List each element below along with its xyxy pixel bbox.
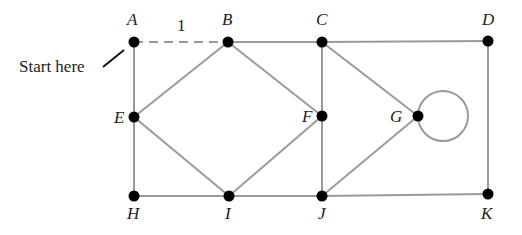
start-pointer	[103, 50, 124, 67]
node-d	[483, 36, 494, 47]
node-c	[317, 37, 328, 48]
node-i	[224, 191, 235, 202]
start-here-note: Start here	[19, 57, 85, 76]
edge-label-ab: 1	[177, 16, 186, 35]
node-k	[483, 189, 494, 200]
node-label-f: F	[301, 107, 313, 126]
edge-f-i	[229, 116, 322, 196]
node-f	[317, 111, 328, 122]
node-label-g: G	[390, 107, 402, 126]
node-e	[129, 112, 140, 123]
edge-b-e	[134, 42, 228, 117]
node-h	[129, 191, 140, 202]
node-label-a: A	[126, 10, 138, 29]
edge-b-f	[228, 42, 322, 116]
edge-loop-g	[418, 91, 468, 141]
node-label-j: J	[318, 204, 327, 223]
node-label-d: D	[481, 10, 495, 29]
edge-e-i	[134, 117, 229, 196]
node-label-c: C	[316, 10, 328, 29]
node-label-i: I	[224, 204, 232, 223]
node-label-k: K	[480, 204, 494, 223]
edge-j-k	[322, 194, 488, 196]
node-label-b: B	[222, 10, 233, 29]
edge-g-j	[322, 116, 418, 196]
node-g	[413, 111, 424, 122]
node-label-e: E	[113, 108, 125, 127]
node-label-h: H	[126, 204, 141, 223]
node-b	[223, 37, 234, 48]
node-a	[129, 37, 140, 48]
node-j	[317, 191, 328, 202]
graph-diagram: ABCDEFGHIJK 1 Start here	[0, 0, 522, 235]
edge-c-d	[322, 41, 488, 42]
edge-c-g	[322, 42, 418, 116]
